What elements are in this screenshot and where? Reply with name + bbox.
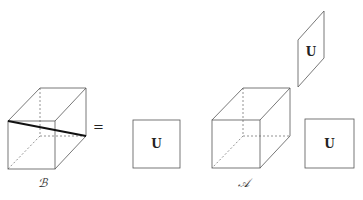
cut-line [8, 121, 86, 136]
hidden-edge [212, 136, 243, 168]
right-cube [212, 88, 290, 168]
diagram-canvas: ℬ = U 𝒜 U U [0, 0, 363, 200]
connect-edge [212, 88, 243, 120]
label-b: ℬ [38, 176, 49, 190]
slanted-face-label: U [306, 45, 317, 59]
left-cube [8, 88, 86, 169]
connect-edge [8, 88, 40, 121]
equals-sign: = [93, 119, 104, 134]
connect-edge [260, 88, 290, 120]
hidden-edge [8, 136, 40, 169]
connect-edge [55, 136, 86, 169]
front-face [212, 120, 260, 168]
connect-edge [260, 136, 290, 168]
connect-edge [55, 88, 86, 121]
label-a: 𝒜 [238, 176, 253, 190]
right-square-label: U [324, 137, 335, 151]
middle-square-label: U [151, 137, 162, 151]
